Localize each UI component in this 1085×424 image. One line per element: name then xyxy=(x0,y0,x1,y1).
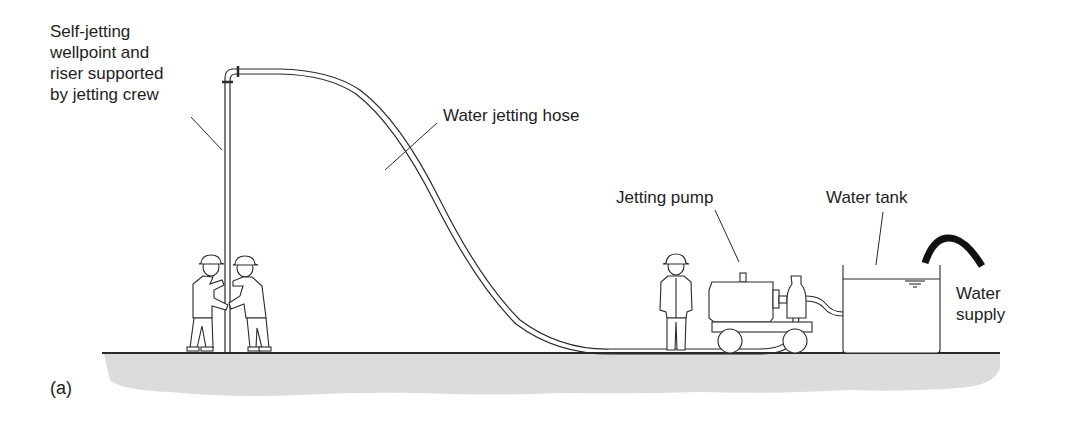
wellpoint-leader-line xyxy=(191,117,222,150)
wellpoint-label-line-1: Self-jetting xyxy=(50,21,163,42)
supply-label-line-2: supply xyxy=(956,304,1005,325)
water-tank xyxy=(843,265,940,353)
tank-leader-line xyxy=(875,212,883,272)
jetting-pump-on-trolley xyxy=(709,273,843,353)
water-supply-hose xyxy=(925,238,982,266)
supply-label-line-1: Water xyxy=(956,283,1005,304)
pump-label: Jetting pump xyxy=(616,187,713,208)
jetting-crew-worker-2 xyxy=(229,256,271,351)
hose-leader-line xyxy=(385,123,437,170)
pump-leader-line xyxy=(715,210,739,262)
supply-label: Water supply xyxy=(956,283,1005,325)
ground xyxy=(102,353,1000,396)
leader-lines xyxy=(191,117,883,272)
tank-label: Water tank xyxy=(826,187,908,208)
wellpoint-label: Self-jetting wellpoint and riser support… xyxy=(50,21,163,105)
wellpoint-label-line-3: riser supported xyxy=(50,63,163,84)
panel-label: (a) xyxy=(50,378,72,399)
pump-operator xyxy=(660,254,692,350)
wellpoint-label-line-2: wellpoint and xyxy=(50,42,163,63)
wellpoint-jetting-diagram: Self-jetting wellpoint and riser support… xyxy=(0,0,1085,424)
jetting-crew-worker-1 xyxy=(187,255,228,351)
wellpoint-label-line-4: by jetting crew xyxy=(50,84,163,105)
hose-label: Water jetting hose xyxy=(443,105,579,126)
